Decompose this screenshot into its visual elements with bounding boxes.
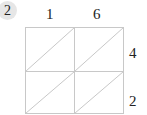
lattice-grid: [0, 0, 147, 115]
